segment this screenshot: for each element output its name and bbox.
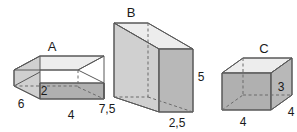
solid-b: B 7,5 2,5 5 [99, 5, 205, 130]
solid-c-dim-depth-label: 4 [288, 105, 295, 119]
solid-b-dim-width-label: 2,5 [169, 116, 186, 130]
solid-c-dim-height-label: 3 [278, 80, 285, 94]
solid-b-name-label: B [127, 5, 136, 20]
solid-a-dim-width-label: 4 [68, 108, 75, 122]
solid-c-dim-width-label: 4 [240, 115, 247, 129]
figure-canvas: A 6 2 4 B 7,5 2,5 5 [0, 0, 297, 132]
solid-a-front-face [40, 83, 104, 99]
solid-a-dim-height-label: 2 [41, 84, 48, 98]
solids-figure: A 6 2 4 B 7,5 2,5 5 [0, 0, 297, 132]
solid-c-front-face [222, 73, 271, 110]
solid-a: A 6 2 4 [14, 39, 104, 122]
solid-c: C 3 4 4 [222, 41, 295, 129]
solid-b-dim-depth-label: 7,5 [99, 102, 116, 116]
solid-c-name-label: C [259, 41, 268, 56]
solid-a-dim-depth-label: 6 [18, 97, 25, 111]
solid-b-dim-height-label: 5 [198, 70, 205, 84]
solid-a-name-label: A [48, 39, 57, 54]
